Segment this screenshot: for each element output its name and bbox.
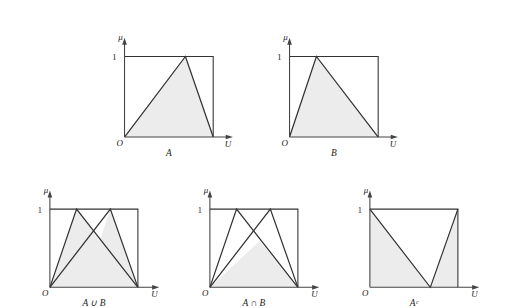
panel-intersection-graphic: μ1OUA ∩ B [197,186,317,298]
figure-canvas: μ1OUA μ1OUB μ1OUA ∪ B μ1OUA ∩ B μ1OUAᶜ [0,0,508,308]
mu-axis-label: μ [363,185,369,195]
panel-a-caption: A [165,148,172,158]
panel-complement-graphic: μ1OUAᶜ [357,186,477,298]
panel-a: μ1OUA [112,24,232,148]
panel-complement-caption: Aᶜ [409,298,420,308]
mu-axis-label: μ [203,185,209,195]
tick-label-one: 1 [358,205,362,215]
mu-axis-label: μ [43,185,49,195]
mu-axis-arrow [208,190,213,197]
panel-union-caption: A ∪ B [81,298,105,308]
panel-b-caption: B [331,148,337,158]
mu-axis-arrow [48,190,53,197]
origin-label: O [42,288,49,298]
mu-axis-label: μ [117,32,123,42]
origin-label: O [202,288,209,298]
mu-axis-arrow [122,38,127,45]
panel-b: μ1OUB [277,24,397,148]
panel-a-graphic: μ1OUA [112,24,232,148]
universe-label: U [390,139,397,149]
panel-intersection-caption: A ∩ B [242,298,266,308]
mu-axis-label: μ [282,32,288,42]
universe-label: U [225,139,232,149]
tick-label-one: 1 [38,205,42,215]
panel-intersection: μ1OUA ∩ B [197,186,317,298]
origin-label: O [281,138,288,148]
panel-union: μ1OUA ∪ B [37,186,157,298]
panel-complement: μ1OUAᶜ [357,186,477,298]
universe-label: U [311,289,318,299]
mu-axis-arrow [287,38,292,45]
panel-b-graphic: μ1OUB [277,24,397,148]
origin-label: O [116,138,123,148]
tick-label-one: 1 [198,205,202,215]
universe-label: U [471,289,478,299]
panel-union-graphic: μ1OUA ∪ B [37,186,157,298]
origin-label: O [362,288,369,298]
universe-label: U [151,289,158,299]
tick-label-one: 1 [112,52,116,62]
mu-axis-arrow [368,190,373,197]
tick-label-one: 1 [277,52,281,62]
